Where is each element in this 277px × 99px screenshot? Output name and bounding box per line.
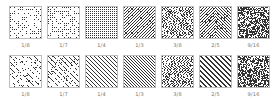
pattern-density-label: 1/8 xyxy=(21,42,30,48)
pattern-density-label: 1/7 xyxy=(59,91,68,97)
pattern-preview xyxy=(161,55,194,88)
pattern-preview xyxy=(161,6,194,39)
pattern-preview xyxy=(9,55,42,88)
pattern-swatch[interactable]: 1/3 xyxy=(123,6,156,48)
pattern-row-1: 1/81/71/41/33/82/59/16 xyxy=(9,6,270,48)
pattern-preview xyxy=(199,6,232,39)
pattern-swatch[interactable]: 1/7 xyxy=(47,6,80,48)
pattern-density-label: 1/3 xyxy=(135,42,144,48)
pattern-density-label: 1/7 xyxy=(59,42,68,48)
pattern-preview xyxy=(47,6,80,39)
pattern-density-label: 2/5 xyxy=(211,42,220,48)
pattern-preview xyxy=(199,55,232,88)
pattern-density-label: 1/4 xyxy=(97,42,106,48)
pattern-preview xyxy=(9,6,42,39)
pattern-swatch[interactable]: 1/7 xyxy=(47,55,80,97)
pattern-density-label: 1/4 xyxy=(97,91,106,97)
pattern-density-label: 3/8 xyxy=(173,42,182,48)
pattern-density-label: 9/16 xyxy=(247,91,259,97)
pattern-preview xyxy=(123,55,156,88)
pattern-row-2: 1/81/71/41/33/82/59/16 xyxy=(9,55,270,97)
pattern-swatch[interactable]: 1/4 xyxy=(85,55,118,97)
pattern-preview xyxy=(123,6,156,39)
pattern-preview xyxy=(85,6,118,39)
pattern-swatch[interactable]: 1/4 xyxy=(85,6,118,48)
pattern-swatch[interactable]: 3/8 xyxy=(161,6,194,48)
pattern-preview xyxy=(47,55,80,88)
pattern-swatch[interactable]: 9/16 xyxy=(237,55,270,97)
pattern-density-label: 9/16 xyxy=(247,42,259,48)
pattern-swatch[interactable]: 2/5 xyxy=(199,55,232,97)
pattern-swatch[interactable]: 1/8 xyxy=(9,55,42,97)
pattern-preview xyxy=(85,55,118,88)
pattern-swatch[interactable]: 1/3 xyxy=(123,55,156,97)
pattern-density-label: 3/8 xyxy=(173,91,182,97)
pattern-swatch[interactable]: 1/8 xyxy=(9,6,42,48)
pattern-density-label: 1/8 xyxy=(21,91,30,97)
pattern-swatch[interactable]: 2/5 xyxy=(199,6,232,48)
pattern-density-label: 1/3 xyxy=(135,91,144,97)
pattern-swatch[interactable]: 3/8 xyxy=(161,55,194,97)
pattern-density-label: 2/5 xyxy=(211,91,220,97)
pattern-preview xyxy=(237,55,270,88)
pattern-swatch[interactable]: 9/16 xyxy=(237,6,270,48)
pattern-preview xyxy=(237,6,270,39)
